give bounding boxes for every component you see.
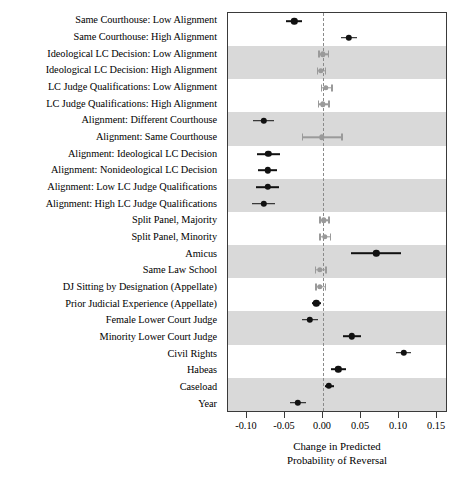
confidence-interval-cap <box>315 266 316 273</box>
estimate-point <box>320 52 325 57</box>
estimate-point <box>307 316 313 322</box>
x-axis-tick-labels: -0.10-0.050.000.050.100.15 <box>207 420 456 436</box>
estimate-point <box>265 151 271 157</box>
estimate-row <box>228 361 446 378</box>
estimate-row <box>228 278 446 295</box>
estimate-row <box>228 311 446 328</box>
estimate-row <box>228 195 446 212</box>
confidence-interval-cap <box>302 134 303 141</box>
estimate-point <box>346 35 352 41</box>
axis-tick-label: -0.10 <box>235 420 256 431</box>
estimate-point <box>291 18 297 24</box>
estimate-point <box>349 333 355 339</box>
category-label: Civil Rights <box>0 345 222 362</box>
x-axis-title-line1: Change in Predicted <box>227 440 447 454</box>
estimate-point <box>317 284 322 289</box>
category-label: Split Panel, Minority <box>0 229 222 246</box>
estimate-row <box>228 212 446 229</box>
category-label: Alignment: Same Courthouse <box>0 129 222 146</box>
estimate-row <box>228 79 446 96</box>
estimate-row <box>228 96 446 113</box>
estimate-row <box>228 46 446 63</box>
estimate-row <box>228 262 446 279</box>
category-label: Alignment: Ideological LC Decision <box>0 145 222 162</box>
estimate-row <box>228 112 446 129</box>
confidence-interval-cap <box>325 68 326 75</box>
category-label: DJ Sitting by Designation (Appellate) <box>0 279 222 296</box>
estimate-row <box>228 245 446 262</box>
axis-tick-label: 0.10 <box>389 420 407 431</box>
estimate-row <box>228 345 446 362</box>
confidence-interval-cap <box>321 84 322 91</box>
estimate-point <box>320 101 325 106</box>
category-label: Ideological LC Decision: High Alignment <box>0 62 222 79</box>
category-label: Amicus <box>0 245 222 262</box>
category-label: Prior Judicial Experience (Appellate) <box>0 295 222 312</box>
axis-tick <box>360 412 361 418</box>
category-label: Same Courthouse: Low Alignment <box>0 12 222 29</box>
estimate-point <box>261 118 267 124</box>
estimate-row <box>228 378 446 395</box>
coefficient-plot-figure: Same Courthouse: Low AlignmentSame Court… <box>0 0 456 486</box>
estimate-point <box>321 218 326 223</box>
category-label: Caseload <box>0 379 222 396</box>
confidence-interval-cap <box>319 233 320 240</box>
confidence-interval-cap <box>318 101 319 108</box>
estimate-point <box>335 366 341 372</box>
axis-tick-label: -0.05 <box>273 420 294 431</box>
category-label: Alignment: Low LC Judge Qualifications <box>0 179 222 196</box>
category-label: Ideological LC Decision: Low Alignment <box>0 45 222 62</box>
confidence-interval-cap <box>328 101 329 108</box>
category-label: Minority Lower Court Judge <box>0 329 222 346</box>
confidence-interval-cap <box>325 283 326 290</box>
estimate-point <box>264 167 270 173</box>
estimate-row <box>228 229 446 246</box>
category-label: Alignment: Different Courthouse <box>0 112 222 129</box>
estimate-row <box>228 162 446 179</box>
estimate-row <box>228 179 446 196</box>
category-label: LC Judge Qualifications: High Alignment <box>0 95 222 112</box>
confidence-interval-cap <box>328 217 329 224</box>
axis-tick-label: 0.05 <box>351 420 369 431</box>
category-label: Same Courthouse: High Alignment <box>0 29 222 46</box>
confidence-interval-cap <box>325 266 326 273</box>
confidence-interval-cap <box>330 233 331 240</box>
category-label-column: Same Courthouse: Low AlignmentSame Court… <box>0 12 222 412</box>
estimate-row <box>228 129 446 146</box>
category-label: Female Lower Court Judge <box>0 312 222 329</box>
estimate-row <box>228 295 446 312</box>
axis-tick <box>284 412 285 418</box>
category-label: Habeas <box>0 362 222 379</box>
estimate-point <box>317 267 322 272</box>
estimate-point <box>326 383 332 389</box>
estimate-point <box>373 250 379 256</box>
estimate-point <box>319 135 324 140</box>
estimate-row <box>228 328 446 345</box>
estimate-point <box>318 68 323 73</box>
axis-tick <box>436 412 437 418</box>
category-label: Split Panel, Majority <box>0 212 222 229</box>
axis-tick <box>398 412 399 418</box>
plot-panel <box>227 12 447 412</box>
estimate-row <box>228 63 446 80</box>
confidence-interval-cap <box>328 51 329 58</box>
estimate-row <box>228 394 446 411</box>
confidence-interval-cap <box>341 134 342 141</box>
estimate-row <box>228 13 446 30</box>
category-label: Alignment: High LC Judge Qualifications <box>0 195 222 212</box>
estimate-point <box>261 200 267 206</box>
estimate-point <box>295 399 301 405</box>
axis-tick <box>322 412 323 418</box>
estimate-point <box>322 234 327 239</box>
confidence-interval-cap <box>331 84 332 91</box>
estimate-point <box>323 85 328 90</box>
estimate-row <box>228 146 446 163</box>
axis-tick-label: 0.15 <box>427 420 445 431</box>
category-label: Year <box>0 395 222 412</box>
estimate-point <box>313 300 319 306</box>
estimate-point <box>400 350 406 356</box>
x-axis-title-line2: Probability of Reversal <box>227 454 447 468</box>
category-label: Same Law School <box>0 262 222 279</box>
category-label: Alignment: Nonideological LC Decision <box>0 162 222 179</box>
estimate-row <box>228 30 446 47</box>
